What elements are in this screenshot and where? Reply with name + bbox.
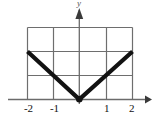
x-tick-label-neg2: -2 <box>24 103 33 114</box>
graph-screenshot: -2 -1 1 2 y <box>0 0 155 123</box>
y-axis-label: y <box>77 0 81 8</box>
y-axis-arrow-icon <box>75 8 83 19</box>
x-tick-label-1: 1 <box>104 103 109 114</box>
x-tick-label-neg1: -1 <box>50 103 59 114</box>
vertex-point <box>76 96 83 103</box>
x-axis-arrow-icon <box>145 96 152 104</box>
abs-value-curve <box>28 52 133 103</box>
y-axis <box>75 8 83 104</box>
x-tick-label-2: 2 <box>129 103 134 114</box>
